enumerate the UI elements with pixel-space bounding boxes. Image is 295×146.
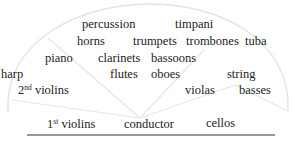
first-violins-text: violins: [58, 117, 95, 131]
label-second-violins: 2nd violins: [18, 84, 69, 97]
label-first-violins: 1st violins: [47, 118, 95, 131]
label-horns: horns: [77, 35, 105, 48]
label-tuba: tuba: [245, 35, 267, 48]
second-violins-text: violins: [32, 83, 69, 97]
label-percussion: percussion: [82, 18, 135, 31]
label-string: string: [227, 68, 255, 81]
second-violins-suffix: nd: [24, 83, 32, 92]
label-timpani: timpani: [175, 18, 213, 31]
radial-line-left: [12, 100, 140, 118]
label-oboes: oboes: [151, 68, 180, 81]
label-clarinets: clarinets: [98, 52, 140, 65]
label-flutes: flutes: [110, 68, 138, 81]
label-basses: basses: [239, 84, 271, 97]
label-piano: piano: [45, 52, 73, 65]
label-bassoons: bassoons: [151, 52, 196, 65]
label-harp: harp: [1, 68, 23, 81]
label-trumpets: trumpets: [133, 35, 177, 48]
label-conductor: conductor: [124, 118, 174, 131]
orchestra-seating-diagram: percussion timpani horns trumpets trombo…: [0, 0, 295, 146]
label-violas: violas: [185, 84, 215, 97]
label-trombones: trombones: [186, 35, 239, 48]
label-cellos: cellos: [206, 117, 235, 130]
